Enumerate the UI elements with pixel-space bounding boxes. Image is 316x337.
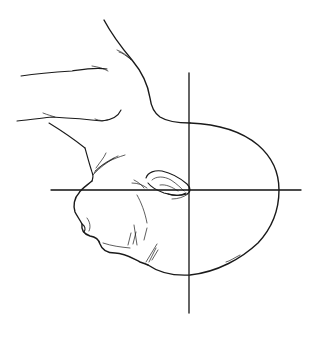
- illustration-canvas: [0, 0, 316, 337]
- infant-head: [74, 123, 279, 275]
- infant-head-drawing: [0, 0, 316, 337]
- adult-arm: [17, 20, 190, 181]
